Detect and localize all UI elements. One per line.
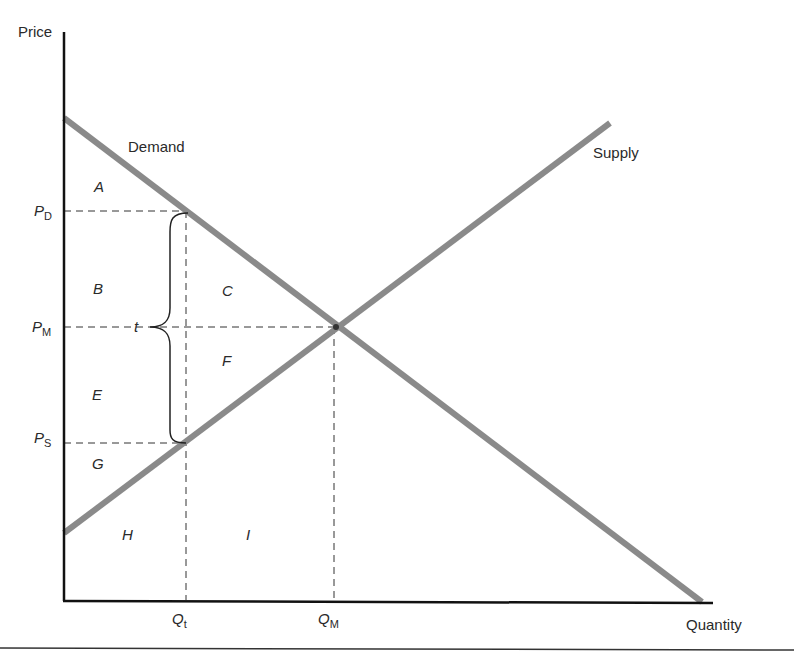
region-label-i: I bbox=[246, 526, 250, 543]
x-axis-label: Quantity bbox=[686, 616, 742, 633]
supply-label: Supply bbox=[593, 144, 639, 161]
region-label-g: G bbox=[92, 455, 104, 472]
quantity-label-qt: Qt bbox=[172, 610, 187, 630]
tax-incidence-diagram: Price Quantity Demand Supply PD PM PS Qt… bbox=[0, 0, 794, 660]
bottom-rule bbox=[0, 648, 794, 650]
price-label-pd: PD bbox=[34, 202, 52, 222]
region-label-b: B bbox=[93, 280, 103, 297]
demand-curve bbox=[64, 118, 702, 602]
x-axis bbox=[63, 601, 713, 603]
region-label-c: C bbox=[222, 282, 233, 299]
equilibrium-point bbox=[333, 324, 339, 330]
region-label-a: A bbox=[93, 178, 104, 195]
region-label-e: E bbox=[92, 386, 103, 403]
y-axis-label: Price bbox=[18, 23, 52, 40]
quantity-label-qm: QM bbox=[318, 610, 339, 630]
region-label-h: H bbox=[122, 526, 133, 543]
demand-label: Demand bbox=[128, 138, 185, 155]
tax-wedge-brace bbox=[150, 213, 188, 443]
region-label-f: F bbox=[222, 352, 232, 369]
guide-lines bbox=[64, 211, 334, 600]
price-label-ps: PS bbox=[34, 429, 51, 449]
price-label-pm: PM bbox=[32, 318, 51, 338]
